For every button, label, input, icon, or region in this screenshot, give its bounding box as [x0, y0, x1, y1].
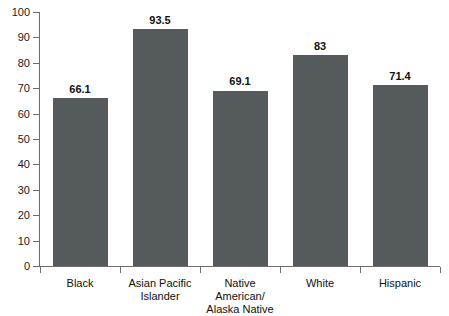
x-axis-category-label: Hispanic — [360, 277, 440, 290]
bar — [293, 55, 348, 266]
x-axis-tick — [360, 267, 361, 273]
x-axis-tick — [440, 267, 441, 273]
bar-value-label: 93.5 — [120, 15, 200, 26]
y-axis-tick — [33, 266, 39, 267]
y-axis-tick — [33, 241, 39, 242]
y-axis-tick-label: 100 — [0, 7, 30, 18]
plot-area — [40, 12, 440, 266]
y-axis-tick — [33, 139, 39, 140]
y-axis-tick-label: 20 — [0, 210, 30, 221]
bar — [373, 85, 428, 266]
x-axis-tick — [120, 267, 121, 273]
y-axis-tick-label: 0 — [0, 261, 30, 272]
bar — [133, 29, 188, 266]
y-axis-tick-label: 80 — [0, 57, 30, 68]
y-axis-tick-label: 90 — [0, 32, 30, 43]
bar-value-label: 71.4 — [360, 71, 440, 82]
y-axis-tick — [33, 190, 39, 191]
x-axis-category-label: Asian Pacific Islander — [120, 277, 200, 303]
y-axis-tick-label: 50 — [0, 134, 30, 145]
y-axis-tick — [33, 164, 39, 165]
y-axis-tick — [33, 88, 39, 89]
y-axis-tick-label: 10 — [0, 235, 30, 246]
y-axis-tick-label: 30 — [0, 184, 30, 195]
x-axis-tick — [280, 267, 281, 273]
bar — [213, 91, 268, 267]
y-axis-tick — [33, 114, 39, 115]
x-axis-line — [39, 266, 440, 267]
y-axis-tick — [33, 63, 39, 64]
bar-value-label: 66.1 — [40, 84, 120, 95]
y-axis-tick — [33, 215, 39, 216]
y-axis-tick — [33, 37, 39, 38]
y-axis-tick — [33, 12, 39, 13]
x-axis-category-label: White — [280, 277, 360, 290]
bar-value-label: 83 — [280, 41, 360, 52]
x-axis-tick — [200, 267, 201, 273]
x-axis-category-label: Native American/ Alaska Native — [200, 277, 280, 316]
bar-value-label: 69.1 — [200, 76, 280, 87]
y-axis-tick-label: 70 — [0, 83, 30, 94]
y-axis-tick-label: 60 — [0, 108, 30, 119]
x-axis-tick — [40, 267, 41, 273]
y-axis-tick-label: 40 — [0, 159, 30, 170]
bar — [53, 98, 108, 266]
x-axis-category-label: Black — [40, 277, 120, 290]
